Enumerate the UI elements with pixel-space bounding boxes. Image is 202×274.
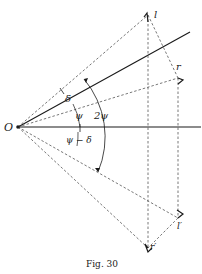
label-r: r — [176, 61, 182, 72]
arrowhead-two-psi-top — [84, 78, 88, 83]
label-origin: O — [4, 121, 13, 134]
label-l-prime: l′ — [177, 221, 182, 231]
label-r-prime: r′ — [150, 242, 156, 252]
origin-point — [16, 125, 20, 129]
marker-r — [178, 78, 183, 84]
delta-tick — [60, 88, 64, 94]
figure-caption: Fig. 30 — [86, 259, 118, 269]
label-l: l — [154, 9, 157, 20]
diagram-canvas: O l r l′ r′ δ ψ 2ψ ψ − δ Fig. 30 — [0, 0, 202, 274]
label-two-psi: 2ψ — [93, 110, 108, 121]
label-delta: δ — [65, 93, 71, 104]
label-psi: ψ — [75, 110, 83, 121]
ray-o-l — [18, 15, 148, 127]
ray-o-r-prime — [18, 127, 148, 248]
ray-o-l-prime — [18, 127, 178, 218]
arc-two-psi — [84, 79, 105, 172]
label-psi-minus-delta: ψ − δ — [66, 135, 92, 145]
